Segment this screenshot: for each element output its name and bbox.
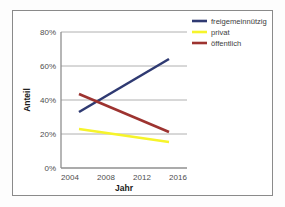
x-tick-label-2004: 2004 <box>61 173 79 182</box>
chart-frame: 80% 60% 40% 20% 0% 2004 2008 2012 2016 J… <box>12 10 273 196</box>
y-tick-label-0: 0% <box>44 164 56 173</box>
legend-label-freigemeinnuetzig[interactable]: freigemeinnützig <box>211 17 267 26</box>
y-tick-label-80: 80% <box>40 28 56 37</box>
x-tick-label-2016: 2016 <box>169 173 187 182</box>
y-axis-title: Anteil <box>22 88 32 112</box>
y-tick-label-20: 20% <box>40 130 56 139</box>
x-tick-label-2012: 2012 <box>133 173 151 182</box>
y-tick-label-60: 60% <box>40 62 56 71</box>
y-tick-label-40: 40% <box>40 96 56 105</box>
figure-container: 80% 60% 40% 20% 0% 2004 2008 2012 2016 J… <box>0 0 285 207</box>
legend-label-privat[interactable]: privat <box>211 28 230 37</box>
x-tick-label-2008: 2008 <box>97 173 115 182</box>
line-chart: 80% 60% 40% 20% 0% 2004 2008 2012 2016 J… <box>13 11 271 194</box>
chart-legend: freigemeinnützig privat öffentlich <box>192 17 267 48</box>
legend-label-oeffentlich[interactable]: öffentlich <box>211 39 241 48</box>
x-axis-title: Jahr <box>115 183 134 193</box>
